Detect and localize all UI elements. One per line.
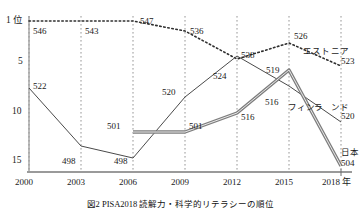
y-tick-1: 1 位 <box>6 16 23 25</box>
series-label-japan: 日本 <box>341 148 359 157</box>
value-label-finland-2015: 516 <box>265 98 279 107</box>
value-label-finland-2000: 522 <box>33 82 47 91</box>
x-tick-2018: 2018 年 <box>322 178 351 187</box>
x-tick-2003: 2003 <box>67 178 85 187</box>
value-label-finland-2012: 538 <box>241 51 255 60</box>
series-label-estonia-2: ニア <box>331 47 349 56</box>
value-label-estonia-2018: 523 <box>341 57 355 66</box>
series-label-finland: フィンラ <box>288 103 323 112</box>
x-tick-2012: 2012 <box>223 178 241 187</box>
value-label-japan-2009: 501 <box>189 122 203 131</box>
value-label-estonia-2015: 526 <box>294 32 308 41</box>
value-label-finland-2018: 520 <box>341 112 355 121</box>
y-tick-15: 15 <box>12 156 22 165</box>
value-label-estonia-2000: 546 <box>33 27 47 36</box>
value-label-finland-2006: 498 <box>114 157 128 166</box>
value-label-japan-2012: 516 <box>241 113 255 122</box>
x-tick-2009: 2009 <box>171 178 189 187</box>
series-line-estonia <box>29 21 341 66</box>
value-label-estonia-2006: 547 <box>140 17 154 26</box>
series-label-finland-2: ンド <box>331 103 349 112</box>
value-label-japan-2015: 519 <box>266 66 280 75</box>
x-tick-2000: 2000 <box>15 178 33 187</box>
chart-figure: 1 位 5 10 15 2000 2003 2006 2009 2012 201… <box>0 0 361 208</box>
value-label-finland-2003: 498 <box>62 157 76 166</box>
value-label-japan-2006: 501 <box>107 122 121 131</box>
figure-caption: 図2 PISA2018 読解力・科学的リテラシーの順位 <box>87 197 275 208</box>
value-label-estonia-2009: 536 <box>190 27 204 36</box>
series-label-estonia: エスト <box>303 47 329 56</box>
value-label-japan-2012-alt: 524 <box>213 72 227 81</box>
value-label-estonia-2003: 543 <box>85 27 99 36</box>
y-tick-5: 5 <box>18 57 23 66</box>
y-tick-10: 10 <box>12 107 22 116</box>
x-tick-2015: 2015 <box>275 178 293 187</box>
value-label-japan-2018: 504 <box>341 159 355 168</box>
value-label-finland-2009: 520 <box>162 88 176 97</box>
x-tick-2006: 2006 <box>119 178 137 187</box>
